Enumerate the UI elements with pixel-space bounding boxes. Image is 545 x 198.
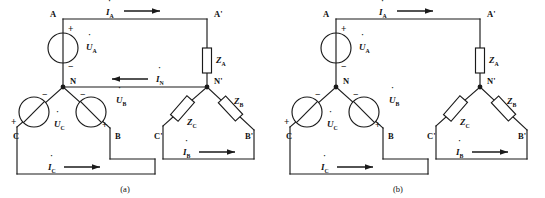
label-node-n: N: [70, 76, 77, 86]
label-ua: ˙ UA: [359, 32, 371, 54]
polarity-uc-plus: +: [284, 117, 289, 127]
svg-text:UB: UB: [116, 95, 127, 107]
label-zb: ZB: [233, 96, 244, 108]
svg-text:˙: ˙: [391, 85, 394, 95]
svg-text:UC: UC: [327, 119, 338, 131]
label-zc: ZC: [459, 117, 470, 129]
polarity-ua-minus: −: [68, 62, 73, 72]
polarity-uc-plus: +: [11, 117, 16, 127]
label-uc: ˙ UC: [54, 109, 65, 131]
label-node-b-prime: B': [245, 131, 253, 141]
label-node-c: C: [286, 131, 292, 141]
label-zb: ZB: [506, 96, 517, 108]
panel-a: A A' N N' C B C' B' + − − + − + ˙ UA ˙ U…: [0, 0, 272, 198]
label-za: ZA: [488, 55, 500, 67]
svg-text:IB: IB: [182, 147, 191, 159]
svg-text:IA: IA: [105, 7, 115, 19]
svg-text:IC: IC: [47, 162, 56, 174]
polarity-ua-plus: +: [68, 24, 73, 34]
label-ia: ˙ IA: [105, 0, 115, 19]
current-ib-arrow: [199, 149, 235, 155]
label-node-a-prime: A': [214, 9, 223, 19]
label-node-n-prime: N': [214, 76, 223, 86]
label-node-b: B: [388, 131, 394, 141]
svg-text:UA: UA: [359, 42, 371, 54]
label-ua: ˙ UA: [86, 32, 98, 54]
impedance-za: [476, 48, 485, 73]
polarity-ub-plus: +: [102, 120, 107, 130]
impedance-za: [203, 48, 212, 73]
label-in: ˙ IN: [155, 65, 165, 86]
label-ib: ˙ IB: [455, 138, 464, 159]
polarity-ub-minus: −: [80, 90, 85, 100]
label-ub: ˙ UB: [389, 85, 400, 107]
caption-panel-a: (a): [120, 184, 130, 194]
svg-text:IN: IN: [155, 74, 165, 86]
label-ia: ˙ IA: [378, 0, 388, 19]
current-ib-arrow: [472, 149, 508, 155]
label-ic: ˙ IC: [47, 153, 56, 174]
polarity-ua-minus: −: [341, 62, 346, 72]
label-ic: ˙ IC: [320, 153, 329, 174]
svg-text:˙: ˙: [361, 32, 364, 42]
label-node-b-prime: B': [518, 131, 526, 141]
polarity-ua-plus: +: [341, 24, 346, 34]
source-uc: [19, 97, 49, 127]
label-node-n: N: [343, 76, 350, 86]
label-node-n-prime: N': [487, 76, 496, 86]
svg-text:UC: UC: [54, 119, 65, 131]
node-n-prime: [478, 85, 483, 90]
polarity-ub-plus: +: [375, 120, 380, 130]
source-ua: [321, 33, 351, 63]
polarity-ub-minus: −: [353, 90, 358, 100]
source-ua: [48, 33, 78, 63]
current-ia-arrow: [124, 8, 160, 14]
label-za: ZA: [215, 55, 227, 67]
node-n-prime: [205, 85, 210, 90]
figure-canvas: A A' N N' C B C' B' + − − + − + ˙ UA ˙ U…: [0, 0, 545, 198]
svg-text:˙: ˙: [329, 109, 332, 119]
polarity-uc-minus: −: [42, 90, 47, 100]
label-uc: ˙ UC: [327, 109, 338, 131]
current-ia-arrow: [397, 8, 433, 14]
label-node-c-prime: C': [427, 131, 436, 141]
label-node-a-prime: A': [487, 9, 496, 19]
svg-text:˙: ˙: [118, 85, 121, 95]
label-node-b: B: [115, 131, 121, 141]
svg-text:˙: ˙: [88, 32, 91, 42]
source-uc: [292, 97, 322, 127]
svg-text:IB: IB: [455, 147, 464, 159]
polarity-uc-minus: −: [315, 90, 320, 100]
caption-panel-b: (b): [393, 184, 403, 194]
svg-text:IA: IA: [378, 7, 388, 19]
label-zc: ZC: [186, 117, 197, 129]
label-node-a: A: [323, 9, 330, 19]
current-ic-arrow: [337, 164, 373, 170]
svg-text:˙: ˙: [56, 109, 59, 119]
label-ib: ˙ IB: [182, 138, 191, 159]
panel-b: A A' N N' C B C' B' + − − + − + ˙ UA ˙ U…: [273, 0, 545, 198]
node-n: [334, 85, 339, 90]
svg-text:IC: IC: [320, 162, 329, 174]
label-ub: ˙ UB: [116, 85, 127, 107]
current-ic-arrow: [64, 164, 100, 170]
current-in-arrow: [112, 76, 148, 82]
node-n: [61, 85, 66, 90]
label-node-a: A: [50, 9, 57, 19]
label-node-c-prime: C': [154, 131, 163, 141]
svg-text:UB: UB: [389, 95, 400, 107]
label-node-c: C: [13, 131, 19, 141]
svg-text:UA: UA: [86, 42, 98, 54]
